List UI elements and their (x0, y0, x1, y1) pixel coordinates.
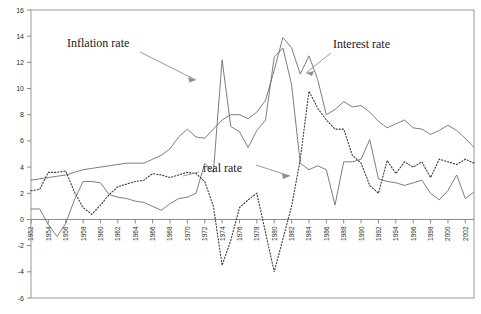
real-rate-arrow-line-left (183, 172, 199, 176)
inflation-arrow-line (140, 52, 196, 80)
chart-annotation-layer: Inflation rate Interest rate real rate (0, 0, 481, 314)
real-rate-annotation: real rate (183, 161, 290, 179)
real-rate-label: real rate (203, 161, 242, 175)
real-rate-arrow-line (256, 165, 290, 176)
interest-rate-label: Interest rate (333, 37, 390, 51)
inflation-rate-label: Inflation rate (67, 36, 129, 50)
interest-rate-annotation: Interest rate (306, 37, 390, 76)
inflation-rate-annotation: Inflation rate (67, 36, 196, 83)
economic-rates-chart: -6-4-20246810121416195219541956195819601… (0, 0, 481, 314)
interest-arrow-line (306, 53, 331, 73)
